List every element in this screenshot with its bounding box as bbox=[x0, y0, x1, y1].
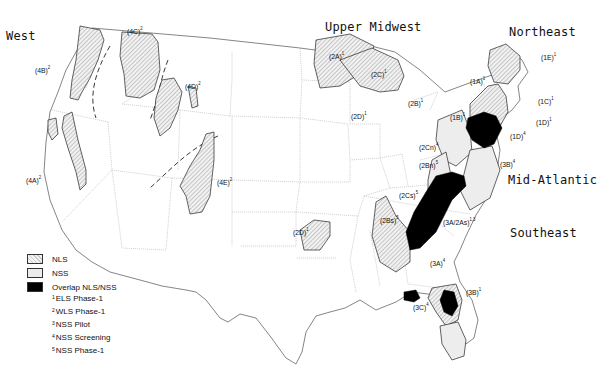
area-label-1D-south: (1D)4 bbox=[510, 130, 526, 141]
area-label-4E: (4E)2 bbox=[217, 176, 232, 187]
legend-item-nls: NLS bbox=[27, 252, 116, 266]
legend-label: NLS bbox=[52, 255, 68, 264]
area-label-3C: (3C)4 bbox=[413, 301, 429, 312]
area-label-2Cs: (2Cs)5 bbox=[399, 189, 418, 200]
nls-swatch-icon bbox=[27, 254, 43, 264]
region-title-west: West bbox=[6, 29, 36, 43]
legend-note: 3NSS Pilot bbox=[27, 320, 116, 333]
region-title-upper-midwest: Upper Midwest bbox=[325, 20, 422, 34]
area-label-2Bn: (2Bn)5 bbox=[419, 159, 438, 170]
legend-label: NSS bbox=[52, 269, 68, 278]
area-label-3A: (3A)4 bbox=[430, 257, 445, 268]
area-label-1A: (1A)1 bbox=[470, 75, 485, 86]
area-label-4D: (4D)2 bbox=[185, 80, 201, 91]
area-label-2Bs: (2Bs)5 bbox=[380, 214, 399, 225]
area-label-4C: (4C)2 bbox=[127, 25, 143, 36]
area-label-3A-2As: (3A/2As)1,3 bbox=[443, 216, 475, 227]
area-label-1B: (1B)1 bbox=[450, 111, 465, 122]
area-label-2D-south: (2D)1 bbox=[293, 226, 309, 237]
legend-note: 1ELS Phase-1 bbox=[27, 294, 116, 307]
region-title-mid-atlantic: Mid-Atlantic bbox=[508, 173, 597, 187]
area-4C bbox=[120, 32, 160, 98]
area-label-2D-north: (2D)1 bbox=[351, 110, 367, 121]
area-label-1E: (1E)1 bbox=[541, 51, 556, 62]
legend-note: 5NSS Phase-1 bbox=[27, 346, 116, 359]
region-title-northeast: Northeast bbox=[509, 25, 576, 39]
region-title-southeast: Southeast bbox=[510, 226, 577, 240]
legend-note: 2WLS Phase-1 bbox=[27, 307, 116, 320]
area-label-4B: (4B)2 bbox=[35, 64, 50, 75]
area-label-2B: (2B)1 bbox=[408, 97, 423, 108]
legend-item-overlap: Overlap NLS/NSS bbox=[27, 280, 116, 294]
area-label-4A: (4A)2 bbox=[26, 174, 41, 185]
area-label-1C: (1C)1 bbox=[538, 95, 554, 106]
area-label-2Cn: (2Cn)4 bbox=[419, 141, 438, 152]
area-label-1D-east: (1D)1 bbox=[536, 116, 552, 127]
area-label-2C: (2C)1 bbox=[371, 68, 387, 79]
legend: NLS NSS Overlap NLS/NSS 1ELS Phase-1 2WL… bbox=[27, 252, 116, 359]
legend-item-nss: NSS bbox=[27, 266, 116, 280]
nss-swatch-icon bbox=[27, 268, 43, 278]
overlap-swatch-icon bbox=[27, 282, 43, 292]
area-label-3B-south: (3B)1 bbox=[466, 286, 481, 297]
area-label-3B-north: (3B)4 bbox=[500, 158, 515, 169]
area-label-2A: (2A)1 bbox=[329, 50, 344, 61]
legend-label: Overlap NLS/NSS bbox=[52, 283, 116, 292]
legend-note: 4NSS Screening bbox=[27, 333, 116, 346]
